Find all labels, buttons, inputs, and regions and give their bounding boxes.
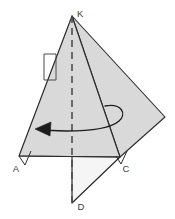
figure-canvas: K A C D: [0, 0, 175, 219]
vertex-label-c: C: [123, 163, 130, 174]
vertex-label-d: D: [78, 201, 85, 212]
geometry-figure: K A C D: [0, 0, 175, 219]
vertex-label-k: K: [77, 8, 84, 19]
vertex-label-a: A: [13, 163, 20, 174]
